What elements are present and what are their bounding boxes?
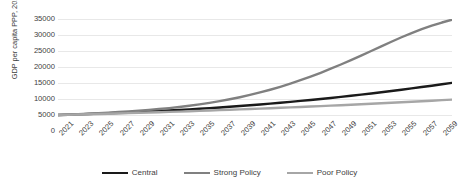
y-axis-tick-label: 15000 bbox=[34, 79, 55, 87]
legend-label: Strong Policy bbox=[214, 168, 261, 178]
y-axis-tick-label: 30000 bbox=[34, 31, 55, 39]
y-axis-tick-label: 10000 bbox=[34, 95, 55, 103]
series-lines bbox=[58, 19, 452, 131]
legend-item[interactable]: Poor Policy bbox=[287, 168, 357, 178]
series-line-central bbox=[58, 83, 452, 115]
legend-item[interactable]: Strong Policy bbox=[184, 168, 261, 178]
legend-swatch-icon bbox=[102, 172, 128, 175]
gdp-per-capita-line-chart: GDP per capita PPP, 2018 prices 05000100… bbox=[0, 0, 459, 187]
y-axis-tick-labels: 05000100001500020000250003000035000 bbox=[14, 0, 58, 140]
legend-label: Poor Policy bbox=[317, 168, 357, 178]
chart-legend: CentralStrong PolicyPoor Policy bbox=[0, 164, 459, 182]
series-line-strong-policy bbox=[58, 20, 452, 115]
x-axis-tick-labels: 2021202320252027202920312033203520372039… bbox=[58, 131, 458, 165]
y-axis-tick-label: 5000 bbox=[38, 111, 55, 119]
legend-swatch-icon bbox=[184, 172, 210, 175]
legend-swatch-icon bbox=[287, 172, 313, 175]
legend-item[interactable]: Central bbox=[102, 168, 158, 178]
series-line-poor-policy bbox=[58, 100, 452, 115]
y-axis-tick-label: 25000 bbox=[34, 47, 55, 55]
legend-label: Central bbox=[132, 168, 158, 178]
y-axis-tick-label: 20000 bbox=[34, 63, 55, 71]
plot-area bbox=[58, 19, 452, 131]
y-axis-title-container: GDP per capita PPP, 2018 prices bbox=[0, 8, 14, 126]
y-axis-tick-label: 0 bbox=[51, 127, 55, 135]
y-axis-tick-label: 35000 bbox=[34, 15, 55, 23]
